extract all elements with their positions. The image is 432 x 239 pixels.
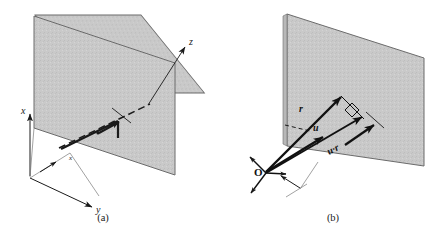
vector-r-label-b: r [299,103,303,114]
vector-u-label-b: u [313,122,319,133]
figure-container: z x y x (a) [0,0,432,239]
x-axis-label-a: x [20,105,26,116]
axis-arrow-right-b [266,173,286,174]
figure-svg: z x y x (a) [0,0,432,239]
caption-a: (a) [97,212,109,224]
origin-label-b: O [254,166,263,178]
plane-edge-b [283,14,287,146]
z-axis-label-a: z [188,36,193,47]
line-point-a [96,131,99,134]
caption-b: (b) [327,212,340,224]
